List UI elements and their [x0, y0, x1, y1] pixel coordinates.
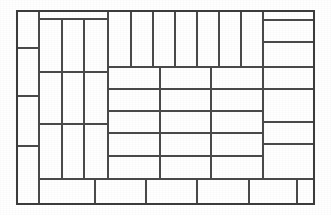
tile-cell [108, 67, 160, 89]
tile-cell [108, 156, 160, 179]
tile-cell [108, 111, 160, 133]
tile-cell [263, 67, 314, 89]
tile-cell [263, 20, 314, 42]
tile-cell [131, 11, 153, 67]
tile-cell [17, 96, 39, 146]
tile-cell [39, 179, 95, 204]
tile-cell [108, 89, 160, 111]
tile-cell [84, 19, 108, 72]
tile-cell [39, 124, 62, 179]
tile-cell [211, 67, 263, 89]
tile-cell [17, 146, 39, 204]
tile-cell [160, 111, 211, 133]
tile-cell [263, 122, 314, 144]
tile-cell [211, 89, 263, 111]
tile-cell [160, 133, 211, 156]
tile-cell [263, 89, 314, 122]
tile-cell [160, 67, 211, 89]
tile-cell [146, 179, 197, 204]
tile-cell [263, 144, 314, 179]
tile-cell [108, 133, 160, 156]
tile-cell [62, 72, 84, 124]
tile-cell [62, 124, 84, 179]
tile-cell-layer [17, 11, 314, 204]
tile-cell [153, 11, 175, 67]
tile-cell [108, 11, 131, 67]
tile-cell [17, 11, 39, 48]
tile-cell [39, 72, 62, 124]
tile-cell [249, 179, 297, 204]
tile-cell [219, 11, 241, 67]
tile-cell [84, 124, 108, 179]
tile-cell [197, 179, 249, 204]
tile-cell [241, 11, 263, 67]
tile-cell [297, 179, 314, 204]
tile-cell [211, 133, 263, 156]
tiling-diagram [0, 0, 331, 215]
tiling-figure [0, 0, 331, 215]
tile-cell [84, 72, 108, 124]
tile-cell [160, 156, 211, 179]
tile-cell [95, 179, 146, 204]
tile-cell [62, 19, 84, 72]
tile-cell [175, 11, 197, 67]
tile-cell [39, 19, 62, 72]
tile-cell [197, 11, 219, 67]
tile-cell [17, 48, 39, 96]
tile-cell [160, 89, 211, 111]
tile-cell [211, 156, 263, 179]
tile-cell [263, 42, 314, 67]
tile-cell [263, 11, 314, 20]
tile-cell [211, 111, 263, 133]
